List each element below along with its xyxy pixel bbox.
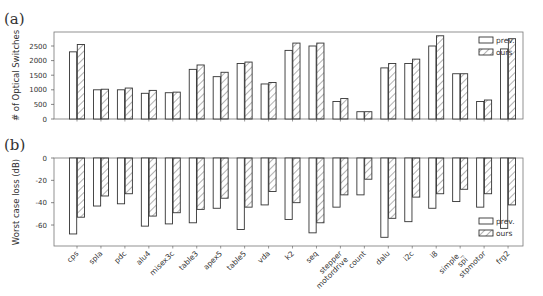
bar-ours [413,158,420,197]
bar-ours [484,100,491,119]
bar-ours [149,90,156,119]
bar-ours [245,158,252,207]
bar-prev [453,74,460,119]
bar-ours [221,158,228,198]
bar-ours [101,89,108,119]
bar-prev [117,90,124,119]
bar-ours [437,36,444,119]
x-tick-label: i2c [402,249,416,263]
bar-ours [484,158,491,194]
chart-optical-switches: 05001000150020002500# of Optical Switche… [11,29,523,123]
x-tick-label: apex5 [201,249,224,272]
chart-worst-case-loss: 0-20-40-60Worst case loss (dB)prev.ours [11,155,523,249]
bar-prev [70,158,77,234]
bar-ours [508,158,515,205]
bar-prev [381,68,388,119]
bar-ours [413,59,420,119]
bar-prev [213,77,220,119]
bar-prev [237,64,244,119]
legend-swatch-prev [479,37,493,43]
legend-swatch-prev [479,218,493,224]
bar-ours [389,64,396,119]
y-axis-label: # of Optical Switches [11,29,21,121]
x-tick-label: misex3c [148,249,176,277]
bar-prev [381,158,388,237]
panel-label-a: (a) [4,10,25,28]
figure: (a) 05001000150020002500# of Optical Swi… [0,0,543,296]
bar-ours [365,158,372,179]
bar-prev [357,112,364,119]
bar-prev [237,158,244,229]
bar-ours [269,83,276,120]
x-tick-label: seq [304,249,320,265]
legend-label: prev. [496,217,515,226]
x-tick-label: i8 [428,249,439,260]
x-tick-label: frg2 [494,249,511,266]
x-axis-category-labels: cpssplapdcalu4misex3ctable3apex5table5vd… [65,248,512,290]
y-tick-label: -40 [36,199,47,207]
bar-prev [213,158,220,208]
x-tick-label: vda [256,249,272,265]
bar-prev [501,49,508,119]
legend-label: prev. [496,36,515,45]
bar-ours [269,158,276,192]
y-tick-label: 1500 [29,72,47,80]
y-axis-label: Worst case loss (dB) [11,159,21,245]
bar-ours [437,158,444,194]
y-tick-label: 1000 [29,86,47,94]
bar-ours [149,158,156,216]
x-tick-label: table5 [225,249,248,272]
panel-label-b: (b) [4,136,25,154]
legend-swatch-ours [479,49,493,55]
bar-prev [453,158,460,202]
bar-ours [460,158,467,189]
legend-label: ours [496,48,512,57]
bar-ours [460,74,467,119]
legend-label: ours [496,229,512,238]
bar-prev [141,158,148,226]
bar-ours [293,158,300,203]
x-tick-label: alu4 [134,249,152,267]
bar-prev [309,158,316,233]
bar-ours [197,65,204,119]
bar-ours [77,158,84,217]
bar-prev [477,101,484,119]
x-tick-label: k2 [283,249,296,262]
bar-prev [429,46,436,119]
bar-ours [341,99,348,119]
x-tick-label: dalu [374,249,392,267]
y-tick-label: 2000 [29,57,47,65]
y-tick-label: -20 [36,177,47,185]
bar-prev [189,69,196,119]
bar-ours [317,158,324,223]
bar-ours [125,88,132,119]
bar-ours [173,92,180,119]
bar-ours [101,158,108,196]
bar-prev [309,46,316,119]
bar-prev [189,158,196,223]
bar-ours [173,158,180,213]
bar-prev [165,158,172,224]
bar-prev [141,93,148,119]
bar-prev [477,158,484,207]
x-tick-label: table3 [177,249,200,272]
bar-prev [93,158,100,206]
bar-prev [261,158,268,205]
bar-prev [357,158,364,195]
bar-prev [333,158,340,207]
bar-prev [405,158,412,222]
bar-ours [245,62,252,119]
bar-ours [77,45,84,119]
y-tick-label: 2500 [29,43,47,51]
y-tick-label: 0 [43,116,47,124]
y-tick-label: 0 [43,155,47,163]
bar-prev [165,93,172,119]
bar-prev [117,158,124,204]
x-tick-label: cps [65,249,80,264]
bar-prev [405,64,412,119]
bar-ours [389,158,396,218]
bar-prev [285,50,292,119]
bar-prev [429,158,436,208]
bar-prev [70,52,77,119]
y-tick-label: 500 [34,101,47,109]
